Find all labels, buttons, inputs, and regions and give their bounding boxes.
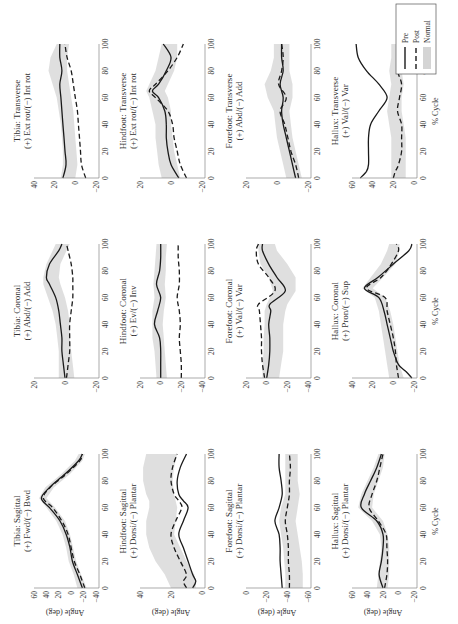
panel-title: Hallux: Transverse xyxy=(330,77,340,145)
y-tick-label: 0 xyxy=(273,181,282,185)
x-tick-label: 80 xyxy=(313,67,322,75)
x-tick-label: 80 xyxy=(419,477,428,485)
x-tick-label: 80 xyxy=(101,267,110,275)
x-tick-label: 0 xyxy=(313,176,322,180)
x-tick-label: 60 xyxy=(101,94,110,102)
x-tick-label: 0 xyxy=(419,586,428,590)
legend-swatch-normal xyxy=(423,47,431,69)
x-tick-label: 80 xyxy=(313,267,322,275)
x-tick-label: 20 xyxy=(313,147,322,155)
x-tick-label: 60 xyxy=(207,294,216,302)
y-tick-label: 40 xyxy=(30,181,39,189)
x-tick-label: 40 xyxy=(101,320,110,328)
x-tick-label: 40 xyxy=(313,320,322,328)
panel-tibia-sagittal: 6040200−20−40020406080100Tibia: Sagittal… xyxy=(12,448,110,617)
x-tick-label: 100 xyxy=(419,448,428,460)
panel-title: Hallux: Sagittal xyxy=(330,492,340,549)
panel-title: Hindfoot: Sagittal xyxy=(118,488,128,553)
x-tick-label: 40 xyxy=(313,530,322,538)
panel-subtitle: (+) Abd/(−) Add xyxy=(22,281,32,341)
y-tick-label: 20 xyxy=(242,381,251,389)
y-tick-label: 0 xyxy=(156,381,165,385)
panel-title: Tibia: Coronal xyxy=(12,284,22,337)
x-tick-label: 80 xyxy=(101,67,110,75)
x-tick-label: 100 xyxy=(207,238,216,250)
panel-subtitle: (+) Dorsi/(−) Plantar xyxy=(234,484,244,559)
y-tick-label: 20 xyxy=(368,381,377,389)
x-tick-label: 60 xyxy=(313,94,322,102)
x-tick-label: 0 xyxy=(207,376,216,380)
x-tick-label: 20 xyxy=(101,557,110,565)
y-tick-label: 0 xyxy=(394,591,403,595)
y-axis-label: Angle (deg) xyxy=(45,608,84,617)
x-tick-label: 80 xyxy=(313,477,322,485)
panel-title: Tibia: Transverse xyxy=(12,80,22,142)
y-tick-label: 0 xyxy=(71,181,80,185)
x-tick-label: 80 xyxy=(419,267,428,275)
pre-line xyxy=(356,44,387,178)
x-tick-label: 60 xyxy=(419,94,428,102)
x-tick-label: 0 xyxy=(101,176,110,180)
normal-band xyxy=(143,454,196,588)
y-tick-label: 0 xyxy=(410,181,419,185)
x-tick-label: 60 xyxy=(419,294,428,302)
x-tick-label: 40 xyxy=(419,120,428,128)
y-tick-label: 40 xyxy=(363,591,372,599)
x-tick-label: 40 xyxy=(419,320,428,328)
x-tick-label: 20 xyxy=(101,147,110,155)
x-tick-label: 20 xyxy=(313,557,322,565)
y-tick-label: −20 xyxy=(79,591,88,603)
panel-title: Forefoot: Coronal xyxy=(224,278,234,343)
panel-forefoot-transverse: 200−20020406080100Forefoot: Transverse(+… xyxy=(224,38,322,193)
y-tick-label: 20 xyxy=(379,591,388,599)
x-tick-label: 20 xyxy=(313,347,322,355)
y-tick-label: −20 xyxy=(92,181,101,193)
y-tick-label: 20 xyxy=(54,591,63,599)
y-tick-label: 40 xyxy=(348,381,357,389)
panel-hallux-coronal: 40200−20020406080100Hallux: Coronal(+) P… xyxy=(330,238,440,393)
y-tick-label: 20 xyxy=(167,591,176,599)
x-tick-label: 100 xyxy=(419,238,428,250)
x-tick-label: 100 xyxy=(207,448,216,460)
y-tick-label: 20 xyxy=(242,181,251,189)
x-tick-label: 20 xyxy=(101,347,110,355)
normal-band xyxy=(279,454,303,588)
y-tick-label: 0 xyxy=(262,381,271,385)
figure-rotated: 6040200−20−40020406080100Tibia: Sagittal… xyxy=(0,0,458,624)
y-tick-label: −20 xyxy=(410,591,419,603)
x-tick-label: 0 xyxy=(313,586,322,590)
y-tick-label: 0 xyxy=(198,591,207,595)
y-tick-label: 60 xyxy=(348,591,357,599)
panel-subtitle: (+) Val/(−) Var xyxy=(340,84,350,137)
x-tick-label: 20 xyxy=(419,557,428,565)
panel-forefoot-sagittal: 0−20−40−60020406080100Forefoot: Sagittal… xyxy=(224,448,322,617)
panel-forefoot-coronal: 200−20−40020406080100Forefoot: Coronal(+… xyxy=(224,238,322,393)
panel-hindfoot-transverse: 200−20020406080100Hindfoot: Transverse(+… xyxy=(118,38,216,193)
y-tick-label: 0 xyxy=(389,381,398,385)
panel-subtitle: (+) Ext rot/(−) Int rot xyxy=(128,72,138,149)
y-tick-label: −20 xyxy=(262,591,271,603)
panel-tibia-coronal: 200−20020406080100Tibia: Coronal(+) Abd/… xyxy=(12,238,110,393)
x-tick-label: 0 xyxy=(101,376,110,380)
y-tick-label: −40 xyxy=(198,381,207,393)
x-tick-label: 80 xyxy=(101,477,110,485)
normal-band xyxy=(49,44,78,178)
x-tick-label: 40 xyxy=(207,120,216,128)
x-tick-label: 100 xyxy=(101,38,110,50)
x-tick-label: 100 xyxy=(313,238,322,250)
panel-subtitle: (+) Pron/(−) Sup xyxy=(340,280,350,341)
x-tick-label: 60 xyxy=(101,504,110,512)
y-tick-label: −20 xyxy=(283,381,292,393)
panel-title: Forefoot: Transverse xyxy=(224,74,234,149)
panel-title: Hindfoot: Coronal xyxy=(118,277,128,344)
legend-label-post: Post xyxy=(412,29,421,43)
y-tick-label: 20 xyxy=(30,381,39,389)
y-tick-label: −20 xyxy=(410,381,419,393)
x-tick-label: 40 xyxy=(313,120,322,128)
x-tick-label: 20 xyxy=(207,347,216,355)
y-tick-label: 20 xyxy=(389,181,398,189)
x-tick-label: 20 xyxy=(419,147,428,155)
x-tick-label: 0 xyxy=(419,376,428,380)
x-tick-label: 100 xyxy=(313,448,322,460)
x-tick-label: 0 xyxy=(101,586,110,590)
